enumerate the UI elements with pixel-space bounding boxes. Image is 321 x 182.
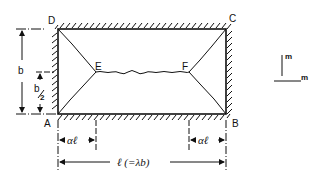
dimension-label-b: b	[18, 65, 24, 76]
corner-label-A: A	[44, 118, 51, 129]
yield-line-F-C	[189, 29, 226, 72]
fixed-support-top-hatch	[60, 23, 226, 28]
yield-lines	[58, 29, 226, 114]
corner-label-C: C	[229, 13, 236, 24]
fixed-support-bottom-hatch	[58, 115, 224, 120]
corner-hatch	[55, 24, 231, 118]
point-label-E: E	[95, 61, 102, 72]
corner-label-D: D	[48, 15, 55, 26]
point-label-F: F	[182, 61, 188, 72]
dimension-label-length: ℓ (=λb)	[117, 156, 150, 169]
moment-label-horizontal: m	[301, 73, 308, 82]
moment-label-vertical: m	[285, 52, 292, 61]
dimension-label-b-half-den: 2	[40, 93, 45, 102]
yield-line-F-B	[189, 72, 226, 114]
yield-line-D-E	[58, 29, 96, 72]
dimension-label-left-alpha-l: αℓ	[67, 134, 78, 146]
yield-line-diagram: D C A B E F b b 2 αℓ αℓ ℓ	[0, 0, 321, 182]
corner-label-B: B	[232, 118, 239, 129]
dimension-label-right-alpha-l: αℓ	[198, 134, 209, 146]
slab-outline	[58, 29, 226, 114]
yield-line-A-E	[58, 72, 96, 114]
fixed-support-left-hatch	[52, 33, 57, 109]
yield-line-E-F	[96, 71, 189, 74]
fixed-support-right-hatch	[227, 31, 232, 114]
